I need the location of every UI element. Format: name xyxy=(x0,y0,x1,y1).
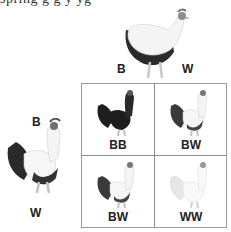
blue-rooster-icon xyxy=(96,160,142,208)
punnett-square: BB BW BW WW xyxy=(81,83,227,228)
hen-allele-b: B xyxy=(117,62,126,76)
rooster-allele-w: W xyxy=(30,206,41,220)
punnett-cell-bw-bottom: BW xyxy=(82,156,154,227)
hen-allele-w: W xyxy=(182,62,193,76)
punnett-cell-bw-top: BW xyxy=(155,84,227,155)
genotype-label: WW xyxy=(155,210,227,224)
genotype-label: BW xyxy=(155,138,227,152)
cut-off-header-text: spring g g y yg xyxy=(0,0,231,6)
genotype-label: BB xyxy=(82,138,154,152)
rooster-parent-illustration xyxy=(4,118,72,194)
genotype-label: BW xyxy=(82,210,154,224)
white-rooster-icon xyxy=(169,160,215,208)
black-rooster-icon xyxy=(96,88,142,136)
punnett-cell-ww: WW xyxy=(155,156,227,227)
blue-rooster-icon xyxy=(169,88,215,136)
punnett-cell-bb: BB xyxy=(82,84,154,155)
